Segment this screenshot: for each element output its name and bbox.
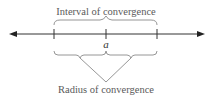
right-radius-brace: [106, 51, 157, 58]
interval-brace: [54, 16, 157, 25]
radius-of-convergence-label: Radius of convergence: [58, 84, 154, 95]
left-arrow-icon: [9, 31, 17, 37]
center-point-label: a: [103, 38, 109, 50]
convergence-diagram: Interval of convergence a Radius of conv…: [0, 0, 217, 99]
left-radius-brace: [54, 51, 106, 58]
right-arrow-icon: [197, 31, 205, 37]
left-radius-pointer: [80, 58, 106, 82]
right-radius-pointer: [106, 58, 131, 82]
